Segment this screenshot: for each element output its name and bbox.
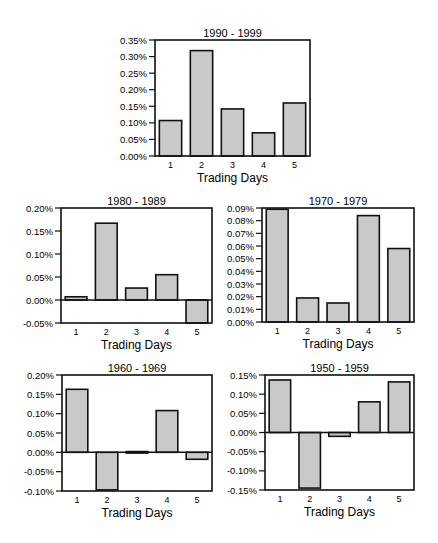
y-tick-label: 0.05% [230, 408, 257, 419]
y-tick-label: 0.15% [230, 370, 257, 381]
bar-day-5 [388, 382, 409, 433]
x-tick-label: 1 [277, 494, 282, 504]
y-tick-label: 0.10% [230, 389, 257, 400]
x-tick-label: 5 [397, 494, 402, 504]
chart-1950-1959: 1950 - 1959 1950 - 195912345-0.15%-0.10%… [0, 0, 438, 543]
y-tick-label: -0.15% [227, 485, 258, 496]
x-tick-label: 3 [337, 494, 342, 504]
y-tick-label: -0.05% [227, 446, 258, 457]
x-tick-label: 4 [367, 494, 372, 504]
y-tick-label: 0.00% [230, 427, 257, 438]
bar-day-4 [359, 402, 380, 433]
x-axis-label: Trading Days [304, 505, 375, 519]
bar-day-1 [269, 380, 290, 433]
x-tick-label: 2 [307, 494, 312, 504]
chart-title: 1950 - 1959 [310, 362, 369, 374]
bar-day-2 [299, 433, 320, 489]
y-tick-label: -0.10% [227, 465, 258, 476]
